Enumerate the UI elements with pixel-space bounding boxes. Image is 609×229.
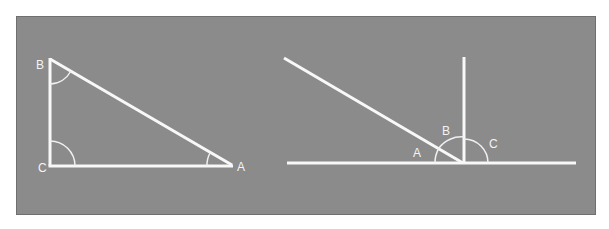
label-c-right: C <box>489 137 498 151</box>
angle-b-arc <box>50 71 71 84</box>
diagram-canvas: B C A A B C <box>0 0 609 229</box>
label-a-right: A <box>413 146 421 160</box>
label-b-right: B <box>442 124 450 138</box>
angle-a-arc-right <box>435 148 439 163</box>
angle-a-arc <box>207 153 210 166</box>
angle-c-arc-right <box>464 139 488 163</box>
label-b: B <box>36 58 44 72</box>
angle-c-arc <box>50 141 75 166</box>
label-c: C <box>38 161 47 175</box>
triangle-diagram: B C A <box>36 58 245 175</box>
straight-line-angles-diagram: A B C <box>284 57 576 163</box>
oblique-line <box>284 58 463 163</box>
side-ba <box>50 59 232 165</box>
label-a: A <box>237 160 245 174</box>
angle-b-arc-right <box>439 137 464 148</box>
